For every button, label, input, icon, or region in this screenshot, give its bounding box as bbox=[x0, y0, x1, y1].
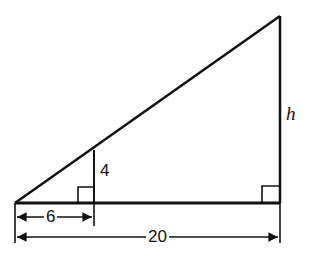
right-angle-marker-inner bbox=[78, 187, 94, 203]
label-inner-base: 6 bbox=[44, 208, 57, 225]
label-inner-height: 4 bbox=[98, 162, 111, 179]
label-outer-base: 20 bbox=[146, 228, 169, 245]
right-angle-marker-outer bbox=[262, 186, 280, 203]
triangle-diagram: 4 h 6 20 bbox=[0, 0, 312, 264]
label-outer-height: h bbox=[286, 104, 296, 123]
outer-triangle bbox=[15, 16, 280, 203]
